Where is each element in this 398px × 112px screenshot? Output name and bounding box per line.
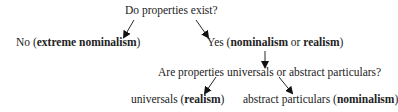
node-particulars-bold: nominalism (337, 93, 395, 105)
node-particulars-prefix: abstract particulars ( (243, 93, 337, 105)
root-question: Do properties exist? (125, 4, 218, 17)
arrow-question2-to-particulars (279, 77, 292, 93)
node-no-prefix: No ( (16, 36, 37, 48)
node-no-suffix: ) (137, 36, 141, 48)
arrow-root-to-no (124, 20, 134, 37)
node-question2-text: Are properties universals or abstract pa… (158, 66, 381, 78)
node-universals: universals (realism) (131, 93, 224, 106)
node-no: No (extreme nominalism) (16, 36, 140, 49)
arrow-question2-to-universals (205, 77, 216, 93)
node-question2: Are properties universals or abstract pa… (158, 66, 381, 79)
node-universals-prefix: universals ( (131, 93, 184, 105)
node-particulars-suffix: ) (394, 93, 398, 105)
node-yes-suffix: ) (340, 36, 344, 48)
node-universals-suffix: ) (221, 93, 225, 105)
node-yes: Yes (nominalism or realism) (207, 36, 343, 49)
node-yes-middle: or (288, 36, 303, 48)
node-yes-prefix: Yes ( (207, 36, 230, 48)
arrow-root-to-yes (196, 20, 208, 37)
node-particulars: abstract particulars (nominalism) (243, 93, 398, 106)
root-question-text: Do properties exist? (125, 4, 218, 16)
node-yes-bold2: realism (303, 36, 339, 48)
node-no-bold: extreme nominalism (37, 36, 137, 48)
node-yes-bold1: nominalism (230, 36, 288, 48)
node-universals-bold: realism (184, 93, 220, 105)
